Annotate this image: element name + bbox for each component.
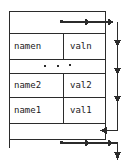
- ellipsis-dot-3: [69, 64, 71, 66]
- ellipsis-dot-2: [57, 65, 59, 67]
- diagram-canvas: namen valn name2 val2 name1 val1: [0, 0, 131, 165]
- arrow-left-elbow-icon: [100, 127, 107, 134]
- arrow-down-1-icon: [114, 40, 121, 47]
- row-n-name-label: namen: [14, 42, 41, 51]
- arrow-down-tail-icon: [114, 152, 121, 160]
- row-n-value-label: valn: [70, 42, 92, 51]
- arrow-down-2-icon: [114, 68, 121, 75]
- arrow-down-3-icon: [114, 96, 121, 103]
- ellipsis-dot-1: [44, 65, 46, 67]
- top-pointer-arrowhead-icon: [108, 19, 114, 26]
- bottom-pointer-midhead-icon: [85, 140, 91, 147]
- bottom-pointer-arrowhead-icon: [108, 140, 114, 147]
- row-1-name-label: name1: [14, 106, 41, 115]
- ellipsis-dots: [44, 64, 71, 67]
- row-2-value-label: val2: [70, 81, 92, 90]
- bottom-pointer-arrow: [60, 140, 118, 147]
- row-2-name-label: name2: [14, 81, 41, 90]
- row-1-value-label: val1: [70, 106, 92, 115]
- top-pointer-midhead-icon: [85, 19, 91, 26]
